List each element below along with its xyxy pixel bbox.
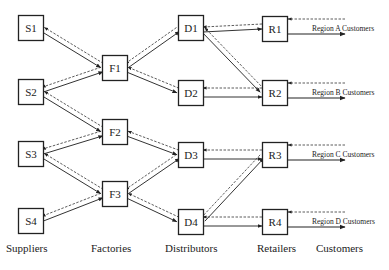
info-flow-f2-s3 — [42, 131, 101, 149]
node-label: D2 — [184, 87, 197, 99]
region-flow-r4: Region D Customers — [287, 212, 375, 227]
node-s2: S2 — [19, 80, 44, 105]
node-r3: R3 — [263, 143, 288, 168]
node-s4: S4 — [19, 209, 44, 234]
info-flow-d1-f1 — [125, 28, 176, 64]
material-flow-s2-f1 — [44, 72, 103, 92]
info-flow-f2-s2 — [44, 91, 103, 127]
material-flow-d1-r1 — [203, 29, 262, 32]
node-d1: D1 — [179, 16, 204, 41]
info-flow-r1-d1 — [203, 24, 262, 27]
node-d3: D3 — [179, 143, 204, 168]
region-flow-r3: Region C Customers — [287, 145, 375, 160]
info-flow-r3-d4 — [201, 155, 260, 218]
column-label-customers: Customers — [316, 242, 363, 254]
node-r4: R4 — [263, 210, 288, 235]
node-label: R4 — [269, 216, 282, 228]
material-flow-s3-f3 — [42, 158, 101, 194]
material-flow-f1-d2 — [126, 72, 177, 93]
node-label: S4 — [25, 215, 37, 227]
node-label: R2 — [269, 87, 282, 99]
material-flow-d1-r2 — [201, 31, 260, 92]
node-label: D1 — [184, 22, 197, 34]
node-label: F1 — [109, 62, 121, 74]
region-customers-label: Region B Customers — [312, 88, 375, 97]
node-label: S1 — [25, 22, 37, 34]
material-flow-f1-d1 — [129, 31, 180, 67]
node-label: D4 — [184, 216, 198, 228]
material-flow-s4-f3 — [44, 198, 103, 221]
node-f2: F2 — [103, 120, 128, 145]
column-label-distributors: Distributors — [165, 242, 218, 254]
node-f3: F3 — [103, 182, 128, 207]
material-flow-f3-d4 — [126, 198, 177, 222]
material-flow-s1-f1 — [42, 32, 101, 68]
column-label-factories: Factories — [91, 242, 131, 254]
node-label: R3 — [269, 149, 282, 161]
info-flow-f3-s4 — [42, 193, 101, 216]
material-flow-f2-d3 — [126, 136, 177, 155]
region-customers-label: Region A Customers — [312, 24, 374, 33]
node-label: S2 — [25, 86, 37, 98]
node-d2: D2 — [179, 81, 204, 106]
info-flow-d3-f3 — [125, 155, 176, 190]
nodes: S1S2S3S4F1F2F3D1D2D3D4R1R2R3R4 — [19, 16, 288, 235]
region-customers-label: Region D Customers — [312, 217, 375, 226]
node-s1: S1 — [19, 16, 44, 41]
column-label-retailers: Retailers — [257, 242, 296, 254]
material-flow-d4-r3 — [205, 158, 264, 221]
customer-flows: Region A CustomersRegion B CustomersRegi… — [287, 19, 375, 227]
info-flow-d4-f3 — [128, 193, 179, 217]
node-label: D3 — [184, 149, 198, 161]
column-label-suppliers: Suppliers — [6, 242, 48, 254]
info-flow-d3-f2 — [128, 131, 179, 150]
node-f1: F1 — [103, 56, 128, 81]
node-label: F2 — [109, 126, 121, 138]
flow-links — [42, 24, 264, 226]
info-flow-f1-s1 — [44, 27, 103, 63]
info-flow-f1-s2 — [42, 67, 101, 87]
supply-chain-diagram: Region A CustomersRegion B CustomersRegi… — [0, 0, 389, 270]
node-label: F3 — [109, 188, 121, 200]
node-r2: R2 — [263, 81, 288, 106]
node-s3: S3 — [19, 142, 44, 167]
node-r1: R1 — [263, 17, 288, 42]
info-flow-r2-d1 — [205, 28, 264, 89]
region-flow-r1: Region A Customers — [287, 19, 374, 34]
node-d4: D4 — [179, 210, 204, 235]
info-flow-d2-f1 — [128, 67, 179, 88]
region-flow-r2: Region B Customers — [287, 83, 375, 98]
material-flow-f3-d3 — [129, 158, 180, 193]
material-flow-s3-f2 — [44, 136, 103, 154]
region-customers-label: Region C Customers — [312, 150, 375, 159]
material-flow-s2-f2 — [42, 96, 101, 132]
node-label: S3 — [25, 148, 37, 160]
info-flow-f3-s3 — [44, 153, 103, 189]
node-label: R1 — [269, 23, 282, 35]
